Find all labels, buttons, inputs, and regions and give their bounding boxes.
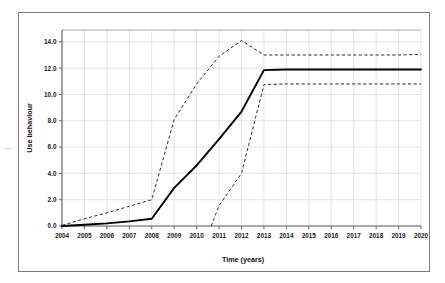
- chart-figure: 0.02.04.06.08.010.012.014.0 200420052006…: [0, 0, 445, 283]
- y-axis-title: Use behaviour: [25, 103, 34, 153]
- x-tick-label: 2007: [122, 232, 137, 239]
- x-tick-label: 2004: [55, 232, 70, 239]
- x-tick-label: 2013: [257, 232, 272, 239]
- x-tick-label: 2011: [212, 232, 226, 239]
- x-tick-label: 2009: [167, 232, 182, 239]
- y-tick-label: 4.0: [48, 170, 57, 177]
- x-tick-label: 2016: [324, 232, 339, 239]
- x-tick-label: 2020: [414, 232, 429, 239]
- y-tick-label: 0.0: [48, 222, 57, 229]
- x-tick-label: 2015: [302, 232, 317, 239]
- gridlines: [62, 30, 421, 226]
- x-tick-label: 2017: [347, 232, 362, 239]
- series-line-2: [211, 84, 421, 226]
- x-tick-label: 2012: [234, 232, 249, 239]
- x-tick-label: 2008: [145, 232, 160, 239]
- x-tick-label: 2019: [391, 232, 406, 239]
- x-tick-label: 2014: [279, 232, 294, 239]
- x-axis-title: Time (years): [222, 255, 265, 264]
- x-tick-label: 2018: [369, 232, 384, 239]
- x-tick-label: 2005: [77, 232, 92, 239]
- x-axis-tick-labels: 2004200520062007200820092010201120122013…: [55, 232, 429, 239]
- y-tick-label: 12.0: [44, 65, 57, 72]
- y-tick-label: 2.0: [48, 196, 57, 203]
- x-tick-label: 2010: [190, 232, 205, 239]
- y-axis-tick-labels: 0.02.04.06.08.010.012.014.0: [44, 38, 57, 229]
- x-tick-label: 2006: [100, 232, 115, 239]
- y-tick-label: 6.0: [48, 143, 57, 150]
- y-tick-label: 14.0: [44, 38, 57, 45]
- y-tick-label: 8.0: [48, 117, 57, 124]
- line-chart: 0.02.04.06.08.010.012.014.0 200420052006…: [0, 0, 445, 283]
- y-tick-label: 10.0: [44, 91, 57, 98]
